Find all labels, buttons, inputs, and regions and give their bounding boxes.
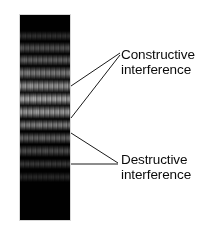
interference-figure: Constructive interference Destructive in… xyxy=(0,0,206,229)
leader-line-destructive xyxy=(71,133,118,163)
label-destructive-interference: Destructive interference xyxy=(121,152,191,182)
constructive-line-2: interference xyxy=(121,62,195,77)
destructive-line-1: Destructive xyxy=(121,152,187,167)
label-constructive-interference: Constructive interference xyxy=(121,47,195,77)
destructive-line-2: interference xyxy=(121,167,191,182)
leader-line-constructive xyxy=(71,53,120,86)
leader-lines xyxy=(0,0,206,229)
constructive-line-1: Constructive xyxy=(121,47,195,62)
leader-line-constructive xyxy=(71,55,120,118)
